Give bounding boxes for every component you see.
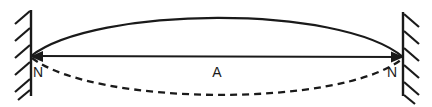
hatch-mark xyxy=(404,65,419,78)
right-wall-hatching xyxy=(404,14,419,104)
left-wall-hatching xyxy=(15,11,30,100)
hatch-mark xyxy=(404,14,419,27)
diagram-canvas: N A N xyxy=(0,0,432,107)
hatch-mark xyxy=(15,62,30,75)
right-wall xyxy=(403,12,419,104)
hatch-mark xyxy=(404,31,419,44)
hatch-mark xyxy=(15,11,30,24)
hatch-mark xyxy=(404,82,419,95)
hatch-mark xyxy=(404,95,415,104)
hatch-mark xyxy=(18,90,30,100)
hatch-mark xyxy=(15,45,30,58)
standing-wave-diagram: N A N xyxy=(0,0,432,107)
antinode-label-center: A xyxy=(212,64,222,80)
left-wall xyxy=(15,10,31,100)
hatch-mark xyxy=(15,28,30,41)
equilibrium-line xyxy=(33,56,401,57)
crest-curve xyxy=(31,18,403,57)
hatch-mark xyxy=(15,79,30,92)
equilibrium-axis xyxy=(30,51,404,63)
node-label-left: N xyxy=(33,64,43,80)
node-label-right: N xyxy=(387,64,397,80)
hatch-mark xyxy=(404,48,419,61)
